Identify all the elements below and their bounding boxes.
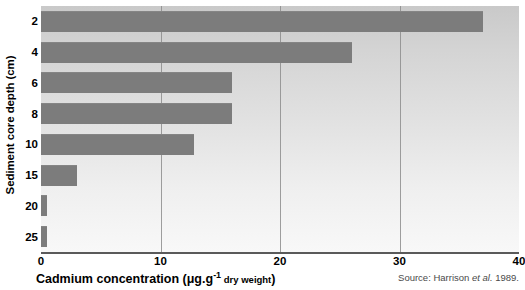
y-tick-label: 20 [25,200,38,212]
x-tick-label: 30 [393,255,406,267]
bar [41,72,232,93]
y-tick-label: 15 [25,169,38,181]
x-axis-title-main: Cadmium concentration ( [36,272,187,286]
x-tick-label: 20 [274,255,287,267]
y-tick-label: 25 [25,231,38,243]
source-suffix: 1989. [493,272,519,283]
x-axis-title-qualifier: dry weight [221,274,271,285]
y-tick-label: 2 [32,15,38,27]
y-tick-label: 8 [32,108,38,120]
chart-figure: Sediment core depth (cm) 246810152025 01… [0,0,525,290]
x-axis-title: Cadmium concentration (μg.g-1 dry weight… [36,270,275,286]
bar [41,42,352,63]
bar [41,11,483,32]
x-axis-title-superscript: -1 [213,270,221,280]
y-axis-tick-labels: 246810152025 [18,6,40,252]
bar [41,195,47,216]
x-tick-label: 0 [38,255,44,267]
x-axis-line [41,252,519,254]
bar [41,165,77,186]
y-tick-label: 10 [25,138,38,150]
x-axis-title-close: ) [271,272,275,286]
y-axis-title-text: Sediment core depth (cm) [4,56,16,195]
x-axis-title-unit: μg.g [187,272,213,286]
y-axis-title: Sediment core depth (cm) [0,0,20,250]
source-prefix: Source: Harrison [398,272,472,283]
y-tick-label: 6 [32,77,38,89]
gridline [400,6,401,252]
plot-area [41,6,519,252]
x-tick-label: 40 [513,255,525,267]
bar [41,103,232,124]
x-axis-tick-labels: 010203040 [41,255,519,271]
bar [41,134,194,155]
source-note: Source: Harrison et al. 1989. [398,272,519,283]
bar [41,226,47,247]
x-tick-label: 10 [154,255,167,267]
y-tick-label: 4 [32,46,38,58]
source-italic: et al. [472,272,493,283]
